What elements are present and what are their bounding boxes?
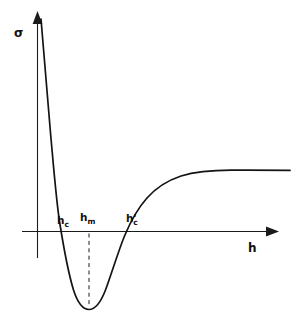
- y-axis-label: σ: [14, 26, 23, 40]
- arrow-right-icon: [266, 227, 279, 237]
- label-h-c-base: h: [57, 214, 64, 226]
- x-axis-label: h: [248, 241, 257, 255]
- figure-container: σ h hc hm h'c: [0, 0, 302, 326]
- label-h-c-prime: h'c: [126, 212, 138, 227]
- sigma-vs-h-plot: σ h hc hm h'c: [0, 0, 302, 326]
- label-h-c-prime-subscript: c: [133, 218, 138, 227]
- label-h-m: hm: [80, 211, 95, 226]
- label-h-m-base: h: [80, 211, 87, 223]
- label-h-c-subscript: c: [64, 220, 69, 229]
- interaction-energy-curve: [41, 19, 290, 310]
- label-h-m-subscript: m: [87, 217, 95, 226]
- label-h-c: hc: [57, 214, 69, 229]
